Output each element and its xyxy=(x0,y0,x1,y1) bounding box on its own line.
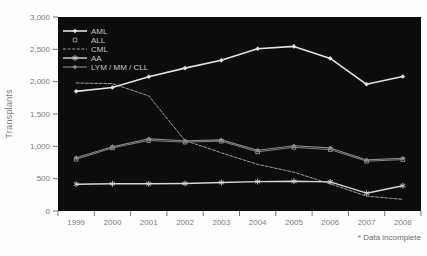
y-tick-label: 3,000 xyxy=(30,13,51,22)
legend-label-aa: AA xyxy=(91,54,102,63)
y-tick-label: 2,500 xyxy=(30,45,51,54)
x-tick-label: 2001 xyxy=(140,218,158,227)
x-tick-label: 2007 xyxy=(358,218,376,227)
x-tick-label: 2005 xyxy=(285,218,303,227)
footnote: * Data incomplete xyxy=(358,233,422,242)
legend-label-aml: AML xyxy=(91,27,108,36)
legend-label-all: ALL xyxy=(91,36,106,45)
chart-canvas: 05001,0001,5002,0002,5003,00019992000200… xyxy=(0,0,427,256)
y-tick-label: 1,000 xyxy=(30,142,51,151)
x-tick-label: 2000 xyxy=(104,218,122,227)
y-tick-label: 0 xyxy=(46,207,51,216)
x-tick-label: 2006 xyxy=(321,218,339,227)
x-tick-label: 2008 xyxy=(394,218,412,227)
y-axis-title: Transplants xyxy=(3,89,14,139)
x-tick-label: 2002 xyxy=(176,218,194,227)
y-tick-label: 2,000 xyxy=(30,77,51,86)
transplants-line-chart: 05001,0001,5002,0002,5003,00019992000200… xyxy=(0,0,427,256)
y-tick-label: 1,500 xyxy=(30,110,51,119)
x-tick-label: 2004 xyxy=(249,218,267,227)
legend-label-lym-mm-cll: LYM / MM / CLL xyxy=(91,63,149,72)
y-tick-label: 500 xyxy=(37,174,51,183)
x-tick-label: 2003 xyxy=(212,218,230,227)
legend-label-cml: CML xyxy=(91,45,108,54)
x-tick-label: 1999 xyxy=(67,218,85,227)
